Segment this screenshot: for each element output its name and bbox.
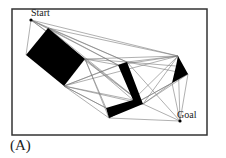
start-node: [29, 18, 32, 21]
visibility-graph-diagram: Start Goal: [0, 0, 226, 158]
figure-caption: (A): [10, 137, 31, 154]
goal-label: Goal: [177, 109, 197, 120]
start-label: Start: [31, 7, 50, 18]
